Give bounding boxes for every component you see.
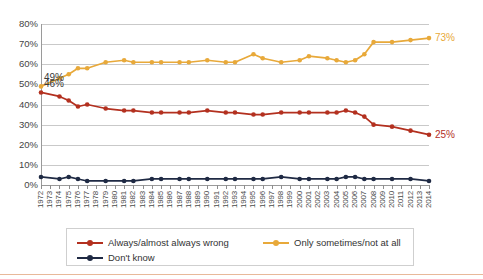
legend-item-1: Only sometimes/not at all	[263, 237, 401, 248]
data-point-marker	[159, 60, 164, 65]
data-point-marker	[371, 40, 376, 45]
data-point-marker	[362, 177, 367, 182]
data-point-marker	[205, 177, 210, 182]
data-point-marker	[76, 177, 81, 182]
data-point-marker	[344, 60, 349, 65]
data-point-marker	[251, 52, 256, 57]
data-point-marker	[187, 177, 192, 182]
data-point-label: 46%	[44, 78, 64, 89]
data-point-marker	[297, 177, 302, 182]
data-point-marker	[233, 60, 238, 65]
data-point-marker	[427, 179, 432, 184]
data-point-marker	[408, 177, 413, 182]
data-point-marker	[85, 102, 90, 107]
data-point-marker	[103, 60, 108, 65]
data-point-marker	[223, 60, 228, 65]
data-point-marker	[307, 177, 312, 182]
data-point-marker	[39, 90, 44, 95]
data-point-marker	[334, 110, 339, 115]
data-point-marker	[205, 108, 210, 113]
data-point-marker	[353, 58, 358, 63]
data-point-marker	[57, 177, 62, 182]
data-point-marker	[390, 40, 395, 45]
data-point-marker	[177, 177, 182, 182]
data-point-marker	[325, 177, 330, 182]
data-point-marker	[251, 112, 256, 117]
legend-label: Always/almost always wrong	[108, 237, 229, 248]
data-point-marker	[427, 36, 432, 41]
data-point-marker	[353, 110, 358, 115]
data-point-marker	[260, 56, 265, 61]
data-point-marker	[279, 110, 284, 115]
data-point-marker	[297, 58, 302, 63]
data-point-marker	[150, 110, 155, 115]
legend-item-2: Don't know	[77, 252, 155, 263]
data-point-marker	[408, 128, 413, 133]
data-point-marker	[57, 94, 62, 99]
data-point-marker	[390, 177, 395, 182]
data-point-marker	[76, 104, 81, 109]
legend: Always/almost always wrong Only sometime…	[66, 228, 414, 266]
legend-swatch-icon	[77, 253, 103, 262]
data-point-marker	[85, 66, 90, 71]
data-point-marker	[187, 110, 192, 115]
legend-swatch-icon	[263, 238, 289, 247]
data-point-marker	[85, 179, 90, 184]
data-point-label: 73%	[435, 32, 455, 43]
data-point-marker	[233, 177, 238, 182]
data-point-marker	[297, 110, 302, 115]
data-point-marker	[371, 177, 376, 182]
data-point-marker	[205, 58, 210, 63]
data-point-marker	[177, 60, 182, 65]
data-point-marker	[150, 60, 155, 65]
data-point-marker	[427, 132, 432, 137]
data-point-marker	[279, 175, 284, 180]
legend-swatch-icon	[77, 238, 103, 247]
bottom-divider	[0, 274, 483, 276]
data-point-marker	[307, 110, 312, 115]
data-point-marker	[362, 114, 367, 119]
data-point-marker	[150, 177, 155, 182]
data-point-marker	[353, 175, 358, 180]
data-point-marker	[159, 177, 164, 182]
data-point-marker	[103, 179, 108, 184]
series-1	[39, 36, 432, 89]
legend-label: Only sometimes/not at all	[294, 237, 401, 248]
data-point-marker	[260, 177, 265, 182]
data-point-marker	[362, 52, 367, 57]
data-point-marker	[307, 54, 312, 59]
data-point-marker	[131, 60, 136, 65]
data-point-marker	[223, 177, 228, 182]
data-point-marker	[39, 175, 44, 180]
data-point-marker	[122, 58, 127, 63]
data-point-marker	[177, 110, 182, 115]
data-point-marker	[131, 179, 136, 184]
data-point-marker	[408, 38, 413, 43]
data-point-marker	[260, 112, 265, 117]
data-point-marker	[66, 175, 71, 180]
data-point-marker	[325, 56, 330, 61]
data-point-marker	[103, 106, 108, 111]
data-point-marker	[76, 66, 81, 71]
series-2	[39, 175, 432, 184]
data-point-marker	[39, 84, 44, 89]
data-point-marker	[159, 110, 164, 115]
data-point-marker	[187, 60, 192, 65]
legend-item-0: Always/almost always wrong	[77, 237, 229, 248]
data-point-marker	[223, 110, 228, 115]
data-point-marker	[251, 177, 256, 182]
data-point-marker	[122, 179, 127, 184]
data-point-marker	[325, 110, 330, 115]
data-point-marker	[344, 175, 349, 180]
data-point-marker	[334, 177, 339, 182]
line-chart: 0%10%20%30%40%50%60%70%80% 1972197319741…	[0, 0, 483, 279]
data-point-marker	[371, 122, 376, 127]
data-point-marker	[279, 60, 284, 65]
data-point-marker	[66, 98, 71, 103]
series-0	[39, 90, 432, 137]
data-point-marker	[66, 72, 71, 77]
data-point-marker	[334, 58, 339, 63]
data-point-marker	[122, 108, 127, 113]
data-point-marker	[131, 108, 136, 113]
data-point-marker	[344, 108, 349, 113]
